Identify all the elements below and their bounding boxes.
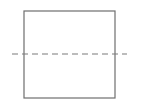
diagram-canvas — [0, 0, 154, 102]
